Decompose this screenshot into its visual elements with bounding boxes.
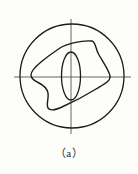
outer-circle — [20, 24, 124, 128]
figure-container: （a） — [0, 0, 138, 174]
figure-caption: （a） — [0, 146, 138, 160]
